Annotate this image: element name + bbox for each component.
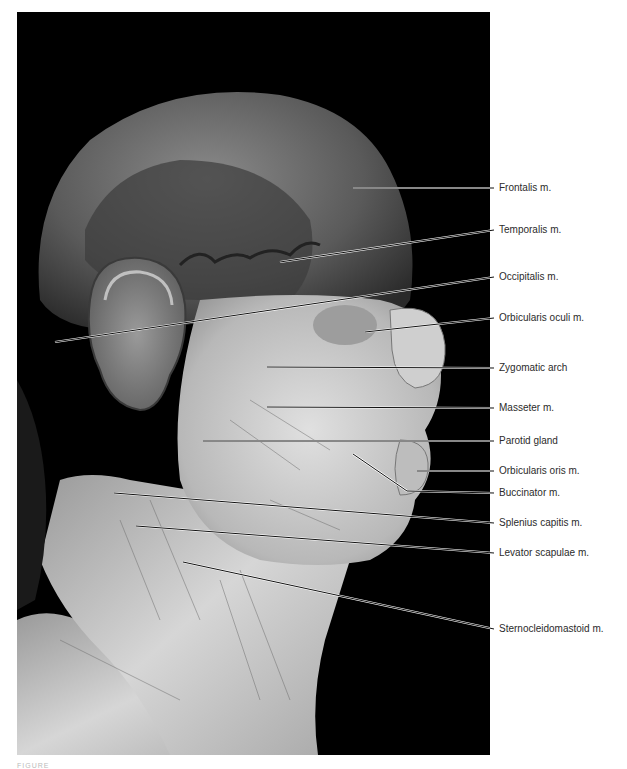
anatomy-label: Parotid gland [499, 435, 558, 447]
anatomy-label: Orbicularis oris m. [499, 465, 580, 477]
anatomy-label: Temporalis m. [499, 224, 561, 236]
anatomy-label: Splenius capitis m. [499, 517, 582, 529]
anatomy-label: Sternocleidomastoid m. [499, 623, 604, 635]
anatomy-label: Levator scapulae m. [499, 547, 589, 559]
anatomy-label: Zygomatic arch [499, 362, 567, 374]
anatomy-label: Frontalis m. [499, 182, 551, 194]
anatomy-label: Occipitalis m. [499, 271, 558, 283]
anatomy-label: Masseter m. [499, 402, 554, 414]
eye-region [313, 305, 377, 345]
anatomy-label: Buccinator m. [499, 487, 560, 499]
anatomy-figure [0, 0, 627, 769]
anatomy-label: Orbicularis oculi m. [499, 312, 584, 324]
figure-caption: FIGURE [17, 762, 49, 769]
